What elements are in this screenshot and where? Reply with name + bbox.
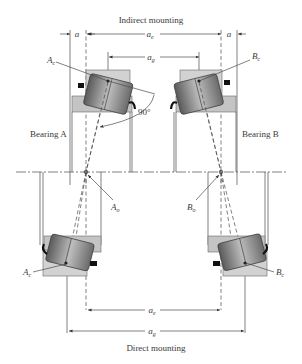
direct-mounting-caption: Direct mounting <box>126 343 186 353</box>
ac-bottom-label: Ac <box>22 267 32 278</box>
bc-top-label: Bc <box>252 51 261 62</box>
seal-icon <box>78 83 84 88</box>
ae-bottom-label: ae <box>148 305 156 316</box>
bearing-b-label: Bearing B <box>242 129 279 139</box>
top-dimensions: a ae a ag <box>60 29 246 63</box>
indirect-mounting-caption: Indirect mounting <box>119 15 184 25</box>
bearing-mounting-diagram: Indirect mounting a ae a ag <box>0 0 302 364</box>
bc-bottom-label: Bc <box>276 267 285 278</box>
ae-top-label: ae <box>146 29 154 40</box>
seal-icon <box>224 80 230 85</box>
seal-icon <box>90 261 97 266</box>
bo-label: Bo <box>187 202 196 213</box>
seal-icon <box>213 261 220 266</box>
ac-top-label: Ac <box>46 55 56 66</box>
ag-top-label: ag <box>147 52 155 63</box>
a-right-label: a <box>227 29 232 39</box>
bottom-dimensions: ae ag <box>69 305 244 337</box>
ag-bottom-label: ag <box>148 326 156 337</box>
a-left-label: a <box>75 29 80 39</box>
angle-label: 90° <box>138 107 151 117</box>
bearing-a-label: Bearing A <box>30 129 67 139</box>
ao-label: Ao <box>110 202 120 213</box>
